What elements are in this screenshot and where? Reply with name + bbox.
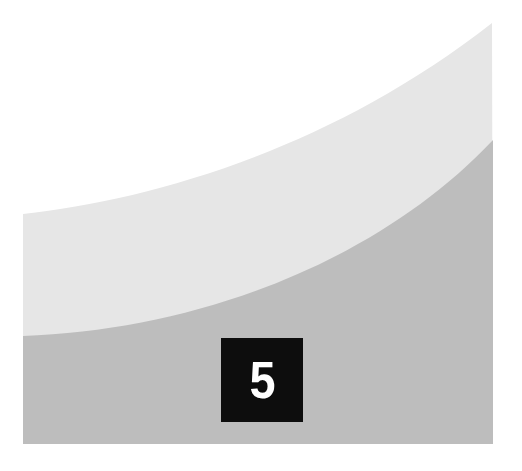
number-badge: 5 <box>221 338 303 422</box>
badge-number: 5 <box>249 354 275 406</box>
